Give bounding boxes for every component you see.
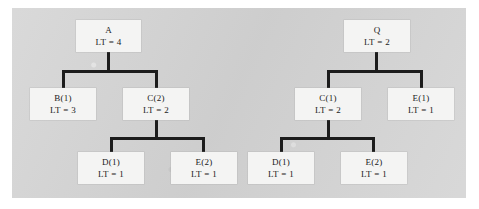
node-d1-label: D(1)	[102, 156, 120, 168]
connector-q-bus	[327, 70, 423, 73]
node-d1-right-label: D(1)	[272, 156, 290, 168]
node-e2-right[interactable]: E(2) LT = 1	[341, 152, 407, 184]
node-c1-label: C(1)	[319, 92, 336, 104]
node-e1-lt: LT = 1	[408, 104, 434, 116]
node-e2-label: E(2)	[196, 156, 213, 168]
connector-c1-bus	[280, 137, 375, 140]
connector-a-to-c2	[155, 70, 158, 89]
node-a[interactable]: A LT = 4	[76, 20, 141, 52]
connector-q-to-c1	[327, 70, 330, 89]
node-c2-label: C(2)	[147, 92, 164, 104]
connector-c2-to-e2	[202, 137, 205, 153]
node-q-label: Q	[374, 24, 381, 36]
connector-a-bus	[62, 70, 158, 73]
node-a-label: A	[105, 24, 112, 36]
node-b1-label: B(1)	[54, 92, 71, 104]
connector-c1-to-d1	[280, 137, 283, 153]
node-d1[interactable]: D(1) LT = 1	[78, 152, 144, 184]
node-e2[interactable]: E(2) LT = 1	[171, 152, 237, 184]
node-d1-right-lt: LT = 1	[268, 168, 294, 180]
node-d1-lt: LT = 1	[98, 168, 124, 180]
node-c1[interactable]: C(1) LT = 2	[295, 88, 361, 120]
node-q[interactable]: Q LT = 2	[344, 20, 410, 52]
node-q-lt: LT = 2	[364, 36, 390, 48]
node-e1-label: E(1)	[413, 92, 430, 104]
node-e1[interactable]: E(1) LT = 1	[388, 88, 454, 120]
diagram-canvas: A LT = 4 B(1) LT = 3 C(2) LT = 2 D(1) LT…	[0, 0, 479, 209]
node-b1-lt: LT = 3	[50, 104, 76, 116]
node-b1[interactable]: B(1) LT = 3	[30, 88, 96, 120]
node-a-lt: LT = 4	[96, 36, 122, 48]
connector-c1-to-e2	[372, 137, 375, 153]
node-c2[interactable]: C(2) LT = 2	[123, 88, 189, 120]
node-e2-right-label: E(2)	[366, 156, 383, 168]
connector-c2-bus	[110, 137, 205, 140]
connector-q-to-e1	[420, 70, 423, 89]
connector-a-to-b1	[62, 70, 65, 89]
node-e2-right-lt: LT = 1	[361, 168, 387, 180]
connector-c2-to-d1	[110, 137, 113, 153]
node-c1-lt: LT = 2	[315, 104, 341, 116]
node-e2-lt: LT = 1	[191, 168, 217, 180]
node-c2-lt: LT = 2	[143, 104, 169, 116]
node-d1-right[interactable]: D(1) LT = 1	[248, 152, 314, 184]
